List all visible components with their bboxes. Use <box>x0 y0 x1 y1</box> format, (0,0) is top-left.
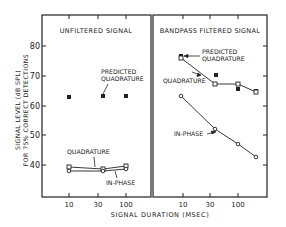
svg-text:QUADRATURE: QUADRATURE <box>163 77 206 84</box>
svg-text:QUADRATURE: QUADRATURE <box>202 55 245 62</box>
svg-text:QUADRATURE: QUADRATURE <box>101 75 144 82</box>
svg-text:FOR 75% CORRECT DETECTIONS: FOR 75% CORRECT DETECTIONS <box>22 54 29 166</box>
svg-text:70: 70 <box>30 72 40 81</box>
x-axis-label: SIGNAL DURATION (MSEC) <box>111 211 210 219</box>
left-in-phase-series <box>67 167 128 173</box>
svg-text:100: 100 <box>231 201 244 209</box>
left-panel-title: UNFILTERED SIGNAL <box>60 27 133 35</box>
svg-text:10: 10 <box>179 201 188 209</box>
right-in-phase-series <box>179 94 258 159</box>
right-panel-title: BANDPASS FILTERED SIGNAL <box>160 27 260 35</box>
chart: 80 70 60 50 40 10 30 100 10 30 100 SIGNA… <box>0 0 286 227</box>
svg-text:30: 30 <box>94 201 103 209</box>
y-tick-labels: 80 70 60 50 40 <box>30 42 40 170</box>
y-axis-label: SIGNAL LEVEL (dB SPL) FOR 75% CORRECT DE… <box>14 54 29 166</box>
svg-text:80: 80 <box>30 42 40 51</box>
svg-text:10: 10 <box>65 201 74 209</box>
svg-text:60: 60 <box>30 102 40 111</box>
right-y-ticks <box>263 46 267 165</box>
svg-text:SIGNAL LEVEL (dB SPL): SIGNAL LEVEL (dB SPL) <box>14 70 21 150</box>
svg-text:QUADRATURE: QUADRATURE <box>67 148 110 155</box>
svg-text:40: 40 <box>30 161 40 170</box>
x-tick-labels: 10 30 100 10 30 100 <box>65 201 245 209</box>
svg-text:100: 100 <box>119 201 132 209</box>
plot-frames <box>42 15 267 197</box>
svg-text:IN-PHASE: IN-PHASE <box>174 130 203 137</box>
svg-text:50: 50 <box>30 131 40 140</box>
svg-text:PREDICTED: PREDICTED <box>202 48 238 55</box>
left-predicted-quadrature-series <box>67 94 128 99</box>
right-annotations: PREDICTED QUADRATURE QUADRATURE IN-PHASE <box>163 48 245 137</box>
right-annotation-arrows <box>184 55 216 135</box>
right-panel-frame <box>153 15 267 197</box>
svg-text:PREDICTED: PREDICTED <box>101 68 137 75</box>
left-panel-frame <box>42 15 151 197</box>
svg-text:IN-PHASE: IN-PHASE <box>106 179 135 186</box>
svg-text:30: 30 <box>206 201 215 209</box>
left-annotation-arrows <box>94 84 117 178</box>
